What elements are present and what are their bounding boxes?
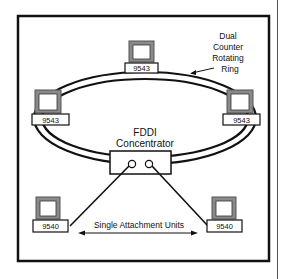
- station-model: 9540: [216, 222, 233, 231]
- concentrator-label-line-1: FDDI: [133, 127, 156, 138]
- ring-label-line-4: Ring: [221, 64, 239, 74]
- concentrator-box: [110, 151, 171, 174]
- monitor-screen: [216, 201, 232, 216]
- ring-label-line-3: Rotating: [212, 53, 244, 63]
- fddi-diagram: Dual Counter Rotating Ring 9543 9543 954…: [0, 0, 285, 279]
- ring-pointer-arrowhead-icon: [190, 70, 196, 75]
- monitor-screen: [40, 201, 56, 216]
- sau-label: Single Attachment Units: [94, 220, 184, 230]
- ring-label-line-1: Dual: [219, 31, 237, 41]
- arrow-right-icon: [191, 231, 198, 236]
- arrow-left-icon: [78, 231, 85, 236]
- monitor-screen: [231, 94, 249, 110]
- monitor-screen: [133, 45, 150, 59]
- station-model: 9543: [233, 116, 250, 125]
- ring-station-top: 9543: [125, 41, 158, 73]
- single-unit-left: 9540: [33, 197, 68, 232]
- link-right: [152, 166, 208, 226]
- monitor-screen: [39, 94, 57, 110]
- concentrator-label-line-2: Concentrator: [116, 138, 174, 149]
- station-model: 9543: [42, 116, 59, 125]
- station-model: 9540: [42, 222, 59, 231]
- link-left: [70, 166, 129, 226]
- ring-label-line-2: Counter: [213, 42, 243, 52]
- single-unit-right: 9540: [207, 197, 242, 232]
- ring-station-right: 9543: [223, 90, 260, 125]
- fddi-concentrator: [110, 151, 171, 174]
- ring-label: Dual Counter Rotating Ring: [190, 31, 244, 75]
- station-model: 9543: [133, 64, 150, 73]
